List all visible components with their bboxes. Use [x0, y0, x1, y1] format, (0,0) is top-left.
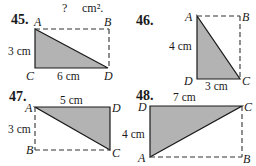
header-unit: cm². — [82, 1, 103, 15]
problem-number: 47. — [9, 89, 27, 104]
vertex-label-b: B — [104, 15, 112, 29]
dimension-horizontal: 3 cm — [205, 80, 228, 92]
dimension-horizontal: 6 cm — [57, 70, 80, 82]
problem-number: 46. — [136, 13, 154, 28]
problem-47: 47. A D B C 3 cm 5 cm — [8, 89, 121, 160]
shaded-triangle — [150, 106, 242, 157]
vertex-label-a: A — [184, 10, 193, 24]
vertex-label-b: B — [243, 152, 251, 166]
geometry-exercises: ? cm². 45. A B C D 3 cm 6 cm 46. A B D C… — [0, 0, 256, 166]
problem-48: 48. D C A B 4 cm 7 cm — [122, 88, 253, 166]
dimension-horizontal: 5 cm — [60, 94, 83, 106]
dimension-vertical: 3 cm — [8, 123, 31, 135]
problem-45: 45. A B C D 3 cm 6 cm — [8, 12, 113, 83]
vertex-label-d: D — [137, 100, 147, 114]
vertex-label-d: D — [183, 74, 193, 88]
dimension-vertical: 4 cm — [122, 128, 145, 140]
vertex-label-a: A — [137, 151, 146, 165]
vertex-label-a: A — [24, 101, 33, 115]
problem-46: 46. A B D C 4 cm 3 cm — [136, 10, 251, 92]
problem-number: 45. — [11, 12, 29, 27]
vertex-label-d: D — [103, 69, 113, 83]
vertex-label-c: C — [244, 100, 253, 114]
vertex-label-b: B — [26, 143, 34, 157]
dimension-vertical: 3 cm — [8, 45, 31, 57]
vertex-label-b: B — [242, 10, 250, 24]
shaded-triangle — [197, 16, 240, 79]
vertex-label-c: C — [242, 74, 251, 88]
dimension-horizontal: 7 cm — [173, 91, 196, 103]
shaded-triangle — [35, 29, 108, 68]
vertex-label-c: C — [26, 69, 35, 83]
vertex-label-c: C — [112, 146, 121, 160]
shaded-triangle — [35, 107, 110, 150]
vertex-label-d: D — [111, 101, 121, 115]
vertex-label-a: A — [33, 15, 42, 29]
dimension-vertical: 4 cm — [169, 40, 192, 52]
header-question-mark: ? — [62, 1, 67, 15]
